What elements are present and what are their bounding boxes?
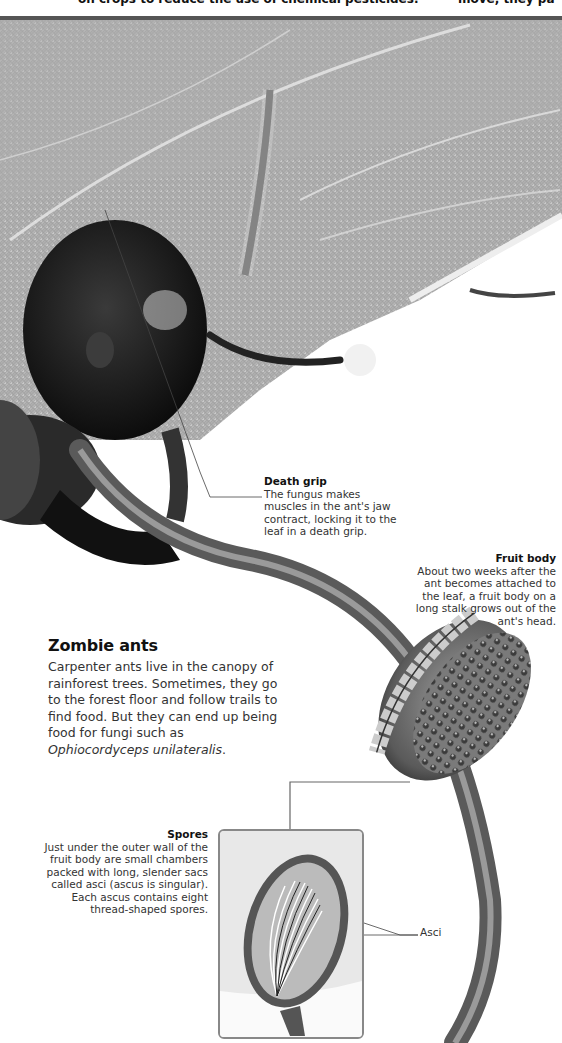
death-grip-text: The fungus makes muscles in the ant's ja… [264,488,397,538]
spores-leader-line [290,782,410,830]
spore-chamber-illustration [220,831,362,1037]
fruit-body-label: Fruit body About two weeks after the ant… [406,552,556,627]
intro-text: Carpenter ants live in the canopy of rai… [48,659,277,740]
ant-antenna-tuft [344,344,376,376]
asci-label: Asci [420,926,441,938]
section-title: Zombie ants [48,636,278,655]
intro-body: Carpenter ants live in the canopy of rai… [48,659,278,758]
fruit-body-text: About two weeks after the ant becomes at… [416,565,556,627]
spores-text: Just under the outer wall of the fruit b… [44,841,208,916]
spores-heading: Spores [36,828,208,841]
intro-section: Zombie ants Carpenter ants live in the c… [48,636,278,758]
species-name: Ophiocordyceps unilateralis [48,742,222,757]
intro-text-end: . [222,742,226,757]
spore-chamber-inset [218,829,364,1039]
spores-label: Spores Just under the outer wall of the … [36,828,208,916]
fruit-body-heading: Fruit body [406,552,556,565]
death-grip-label: Death grip The fungus makes muscles in t… [264,475,404,538]
death-grip-heading: Death grip [264,475,404,488]
